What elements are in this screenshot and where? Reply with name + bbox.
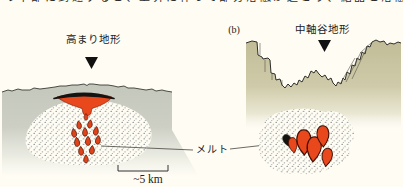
scale-bar-label: ~5 km bbox=[133, 173, 163, 185]
panel-b-index: (b) bbox=[228, 24, 240, 36]
panel-b-label: 中軸谷地形 bbox=[295, 23, 350, 35]
ridge-axis-marker-b bbox=[318, 40, 331, 52]
panel-a-axial-high: 高まり地形 ~5 km bbox=[2, 33, 202, 187]
ridge-axis-marker-a bbox=[85, 57, 98, 69]
panel-b-median-valley: (b) 中軸谷地形 bbox=[228, 23, 401, 174]
ridge-diagram-canvas: 高まり地形 ~5 km メルト bbox=[0, 0, 403, 187]
figure-ridge-topography: の下部に到達すると、上昇に伴って部分溶融が起こり、結晶と溶融体が混在する状態が生… bbox=[0, 0, 403, 187]
panel-a-label: 高まり地形 bbox=[66, 33, 121, 45]
melt-label: メルト bbox=[196, 144, 229, 155]
